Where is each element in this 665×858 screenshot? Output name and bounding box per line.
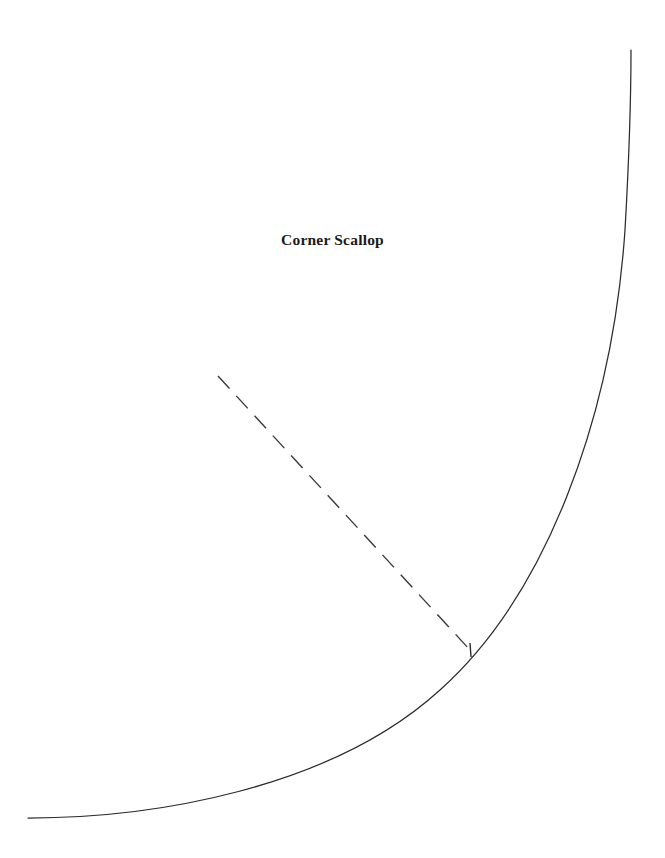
corner-scallop-diagram [0, 0, 665, 858]
figure-title: Corner Scallop [0, 231, 665, 249]
figure-page: Corner Scallop [0, 0, 665, 858]
radius-guide-line [218, 376, 470, 650]
tangent-tick-mark [470, 643, 471, 657]
scallop-curve [28, 50, 631, 818]
